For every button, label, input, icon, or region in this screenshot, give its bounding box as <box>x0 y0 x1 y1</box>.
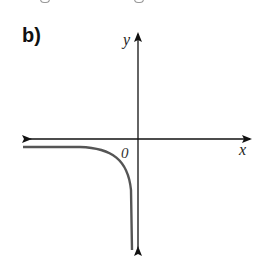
y-axis-label: y <box>121 31 131 49</box>
x-axis-label: x <box>238 141 246 158</box>
graph: y x 0 <box>0 0 264 259</box>
origin-label: 0 <box>121 145 129 161</box>
function-curve <box>23 147 132 250</box>
